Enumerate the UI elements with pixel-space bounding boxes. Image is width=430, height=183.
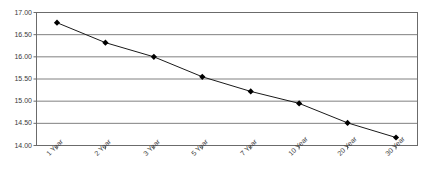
chart-plot-area	[0, 0, 430, 183]
y-axis-tick-label: 16.50	[2, 31, 32, 38]
data-point-marker	[248, 88, 254, 94]
y-axis-tick-label: 16.00	[2, 53, 32, 60]
data-series-line	[57, 23, 396, 138]
y-axis-tick-label: 15.00	[2, 97, 32, 104]
y-axis-tick-label: 17.00	[2, 9, 32, 16]
data-point-marker	[102, 40, 108, 46]
data-point-markers	[54, 20, 399, 141]
data-point-marker	[151, 54, 157, 60]
y-axis-tick-label: 14.50	[2, 119, 32, 126]
data-point-marker	[344, 120, 350, 126]
y-axis-tick-label: 14.00	[2, 142, 32, 149]
y-axis-tick-label: 15.50	[2, 75, 32, 82]
gridlines	[37, 35, 418, 124]
chart-container: 17.0016.5016.0015.5015.0014.5014.00 1 Ye…	[0, 0, 430, 183]
data-point-marker	[54, 20, 60, 26]
